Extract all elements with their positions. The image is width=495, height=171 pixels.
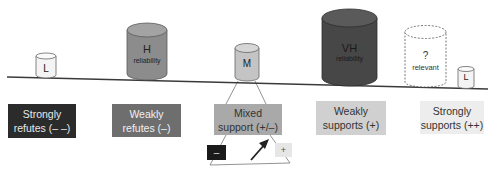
category-line2: supports (++) xyxy=(421,118,483,132)
cylinder-vh-label: VH xyxy=(322,42,377,54)
category-line1: Strongly xyxy=(14,107,71,121)
category-line2: supports (+) xyxy=(323,118,379,132)
cylinder-unknown-sublabel: relevant xyxy=(403,63,448,72)
category-strongly-refutes: Strongly refutes (– –) xyxy=(8,104,76,138)
category-weakly-refutes: Weakly refutes (–) xyxy=(112,104,181,137)
mixed-minus-indicator: – xyxy=(207,145,226,160)
evidence-balance-diagram: L H reliability M VH reliability ? relev… xyxy=(0,0,495,171)
category-line1: Weakly xyxy=(123,107,171,121)
category-line1: Strongly xyxy=(421,104,483,118)
cylinder-h-label: H xyxy=(127,43,167,55)
category-mixed-support: Mixed support (+/–) xyxy=(214,104,282,135)
category-line2: support (+/–) xyxy=(218,120,278,134)
category-line2: refutes (– –) xyxy=(14,121,71,135)
category-strongly-supports: Strongly supports (++) xyxy=(420,101,484,134)
cylinder-l-left-label: L xyxy=(36,63,56,74)
category-line1: Mixed xyxy=(218,106,278,120)
diagonal-up-right-arrow-icon xyxy=(251,139,269,160)
category-line1: Weakly xyxy=(323,104,379,118)
cylinder-m-label: M xyxy=(235,58,259,69)
mixed-plus-indicator: + xyxy=(275,143,292,157)
cylinder-l-right-label: L xyxy=(458,72,474,82)
cylinder-h-sublabel: reliability xyxy=(124,57,170,64)
category-line2: refutes (–) xyxy=(123,121,171,135)
category-weakly-supports: Weakly supports (+) xyxy=(316,101,386,135)
cylinder-vh-sublabel: reliability xyxy=(322,55,377,62)
cylinder-unknown-label: ? xyxy=(405,50,446,61)
